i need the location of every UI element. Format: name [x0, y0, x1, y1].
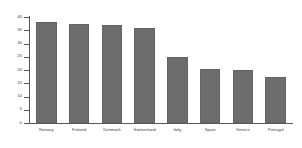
plot-area: [30, 17, 292, 123]
y-axis-tick-label-text: 10: [0, 94, 22, 98]
x-axis-line: [29, 123, 293, 124]
y-axis-tick-label-text: 0: [0, 121, 22, 125]
y-axis-tick-label: 30: [0, 41, 22, 46]
y-axis-tick-label: 10: [0, 94, 22, 99]
x-axis-tick-label: Spain: [194, 127, 227, 132]
x-axis-tick-label: Italy: [161, 127, 194, 132]
y-axis-tick: [24, 30, 29, 31]
y-axis-tick-label-text: 30: [0, 41, 22, 45]
y-axis-tick-label: 35: [0, 28, 22, 33]
y-axis-tick: [24, 110, 29, 111]
x-axis-tick-label: Denmark: [96, 127, 129, 132]
x-axis-tick-label: Norway: [30, 127, 63, 132]
bar-chart: 0510152025303540 NorwayFinlandDenmarkSwi…: [0, 0, 302, 148]
y-axis-tick-label-text: 35: [0, 28, 22, 32]
y-axis-tick-label: 0: [0, 121, 22, 126]
y-axis-tick-label-text: 40: [0, 15, 22, 19]
y-axis-tick: [24, 70, 29, 71]
y-axis-tick: [24, 97, 29, 98]
x-axis-tick-label: Switzerland: [128, 127, 161, 132]
bar-column: [36, 17, 56, 123]
y-axis-tick-label: 40: [0, 15, 22, 20]
bar: [134, 28, 154, 123]
bar: [69, 24, 89, 123]
bar-column: [102, 17, 122, 123]
bar: [200, 69, 220, 123]
bar: [36, 22, 56, 123]
bar-column: [167, 17, 187, 123]
bar-column: [233, 17, 253, 123]
y-axis-tick: [24, 44, 29, 45]
y-axis-tick: [24, 123, 29, 124]
bar: [167, 57, 187, 123]
y-axis-tick: [24, 57, 29, 58]
bar: [233, 70, 253, 123]
y-axis-tick-label-text: 20: [0, 68, 22, 72]
y-axis-tick: [24, 17, 29, 18]
x-axis-tick-label: Greece: [227, 127, 260, 132]
y-axis-tick-label-text: 15: [0, 81, 22, 85]
bar-column: [265, 17, 285, 123]
y-axis-tick: [24, 83, 29, 84]
bar-column: [69, 17, 89, 123]
y-axis-tick-label-text: 5: [0, 107, 22, 111]
x-axis-tick-label: Portugal: [259, 127, 292, 132]
y-axis-tick-label-text: 25: [0, 54, 22, 58]
bar-column: [200, 17, 220, 123]
y-axis-tick-label: 5: [0, 107, 22, 112]
bar-column: [134, 17, 154, 123]
y-axis-tick-label: 25: [0, 54, 22, 59]
x-axis-tick-label: Finland: [63, 127, 96, 132]
bar: [265, 77, 285, 123]
y-axis-tick-label: 20: [0, 68, 22, 73]
y-axis-tick-label: 15: [0, 81, 22, 86]
bar: [102, 25, 122, 123]
